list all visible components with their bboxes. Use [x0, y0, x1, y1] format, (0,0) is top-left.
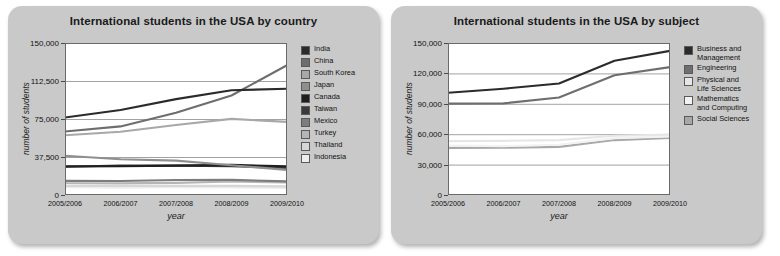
- legend-subject: Business and ManagementEngineeringPhysic…: [684, 45, 756, 127]
- legend-country: IndiaChinaSouth KoreaJapanCanadaTaiwanMe…: [301, 45, 373, 165]
- legend-label: Thailand: [314, 141, 342, 150]
- y-axis-tick: 37,500: [14, 153, 59, 162]
- legend-label: Indonesia: [314, 153, 346, 162]
- legend-label: Taiwan: [314, 105, 337, 114]
- x-axis-tick: 2009/2010: [653, 199, 687, 208]
- series-line: [448, 67, 670, 103]
- legend-item[interactable]: Indonesia: [301, 153, 373, 163]
- chart-svg-subject: [448, 43, 670, 195]
- legend-label: Japan: [314, 81, 334, 90]
- legend-swatch-icon: [301, 130, 310, 139]
- y-axis-tick-mark: [61, 43, 65, 44]
- legend-item[interactable]: India: [301, 45, 373, 55]
- x-axis-tick: 2005/2006: [431, 199, 465, 208]
- chart-title-country: International students in the USA by cou…: [8, 6, 379, 27]
- series-line: [65, 119, 287, 135]
- legend-label: India: [314, 45, 330, 54]
- y-axis-tick-mark: [444, 195, 448, 196]
- legend-item[interactable]: Social Sciences: [684, 115, 756, 125]
- y-axis-tick-mark: [61, 119, 65, 120]
- y-axis-tick-mark: [61, 195, 65, 196]
- plot-border: [449, 44, 670, 195]
- legend-item[interactable]: South Korea: [301, 69, 373, 79]
- legend-label: Physical and Life Sciences: [697, 76, 741, 93]
- x-axis-label-subject: year: [448, 211, 670, 221]
- legend-item[interactable]: Mathematics and Computing: [684, 95, 756, 112]
- x-axis-tick: 2008/2009: [215, 199, 249, 208]
- x-axis-tick: 2007/2008: [542, 199, 576, 208]
- x-axis-tick: 2008/2009: [598, 199, 632, 208]
- legend-swatch-icon: [301, 46, 310, 55]
- chart-title-subject: International students in the USA by sub…: [391, 6, 762, 27]
- legend-item[interactable]: Japan: [301, 81, 373, 91]
- legend-swatch-icon: [301, 94, 310, 103]
- y-axis-tick: 60,000: [397, 130, 442, 139]
- legend-item[interactable]: Thailand: [301, 141, 373, 151]
- legend-label: Social Sciences: [697, 115, 749, 124]
- legend-swatch-icon: [301, 106, 310, 115]
- y-axis-tick-mark: [444, 43, 448, 44]
- legend-item[interactable]: China: [301, 57, 373, 67]
- legend-item[interactable]: Physical and Life Sciences: [684, 76, 756, 93]
- plot-border: [66, 44, 287, 195]
- chart-panel-subject: International students in the USA by sub…: [391, 6, 762, 244]
- y-axis-tick-mark: [444, 73, 448, 74]
- x-axis-label-country: year: [65, 211, 287, 221]
- x-axis-tick: 2009/2010: [270, 199, 304, 208]
- y-axis-tick-mark: [444, 134, 448, 135]
- y-axis-tick: 30,000: [397, 160, 442, 169]
- series-line: [65, 186, 287, 187]
- legend-swatch-icon: [684, 96, 693, 105]
- plot-area-subject: [448, 43, 670, 195]
- chart-svg-country: [65, 43, 287, 195]
- series-line: [65, 180, 287, 182]
- legend-swatch-icon: [301, 58, 310, 67]
- y-axis-tick: 75,000: [14, 115, 59, 124]
- chart-panel-country: International students in the USA by cou…: [8, 6, 379, 244]
- x-axis-tick: 2005/2006: [48, 199, 82, 208]
- chart-body-subject: number of students year Business and Man…: [391, 27, 762, 227]
- chart-body-country: number of students year IndiaChinaSouth …: [8, 27, 379, 227]
- y-axis-tick: 112,500: [14, 77, 59, 86]
- x-axis-tick: 2007/2008: [159, 199, 193, 208]
- legend-label: Engineering: [697, 64, 736, 73]
- y-axis-tick: 150,000: [14, 39, 59, 48]
- y-axis-tick: 90,000: [397, 99, 442, 108]
- legend-label: Mathematics and Computing: [697, 95, 747, 112]
- legend-label: Canada: [314, 93, 340, 102]
- y-axis-tick-mark: [61, 157, 65, 158]
- y-axis-tick: 150,000: [397, 39, 442, 48]
- x-axis-tick: 2006/2007: [104, 199, 138, 208]
- legend-label: Business and Management: [697, 45, 741, 62]
- legend-item[interactable]: Business and Management: [684, 45, 756, 62]
- y-axis-tick-mark: [444, 104, 448, 105]
- legend-item[interactable]: Canada: [301, 93, 373, 103]
- plot-area-country: [65, 43, 287, 195]
- legend-swatch-icon: [684, 46, 693, 55]
- y-axis-label-subject: number of students: [404, 82, 414, 155]
- legend-item[interactable]: Mexico: [301, 117, 373, 127]
- y-axis-tick: 120,000: [397, 69, 442, 78]
- y-axis-tick-mark: [61, 81, 65, 82]
- legend-label: China: [314, 57, 333, 66]
- legend-item[interactable]: Taiwan: [301, 105, 373, 115]
- legend-label: Turkey: [314, 129, 336, 138]
- legend-swatch-icon: [301, 70, 310, 79]
- series-line: [65, 187, 287, 188]
- legend-swatch-icon: [301, 142, 310, 151]
- legend-swatch-icon: [301, 82, 310, 91]
- legend-swatch-icon: [684, 77, 693, 86]
- legend-swatch-icon: [684, 65, 693, 74]
- legend-swatch-icon: [301, 154, 310, 163]
- legend-swatch-icon: [684, 116, 693, 125]
- legend-label: Mexico: [314, 117, 337, 126]
- legend-swatch-icon: [301, 118, 310, 127]
- legend-item[interactable]: Engineering: [684, 64, 756, 74]
- legend-label: South Korea: [314, 69, 355, 78]
- legend-item[interactable]: Turkey: [301, 129, 373, 139]
- charts-container: International students in the USA by cou…: [0, 0, 780, 256]
- y-axis-tick-mark: [444, 165, 448, 166]
- x-axis-tick: 2006/2007: [487, 199, 521, 208]
